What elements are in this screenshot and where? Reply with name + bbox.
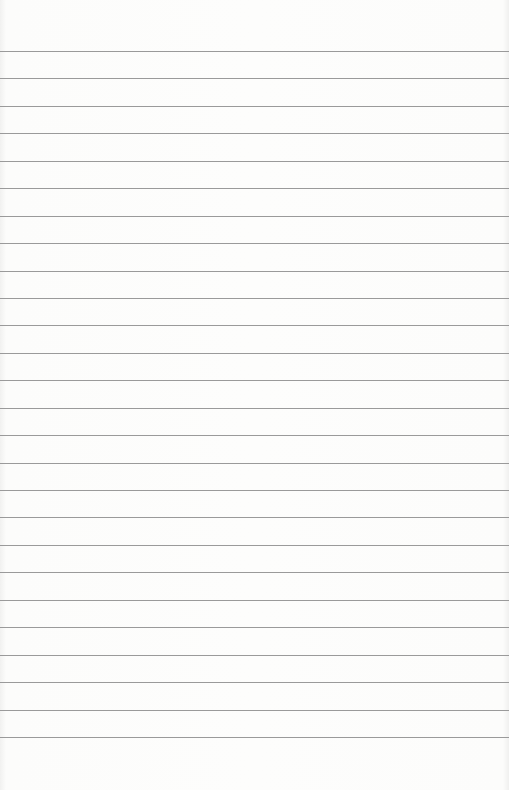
ruled-line (0, 572, 509, 573)
ruled-line (0, 737, 509, 738)
lined-paper-sheet (0, 0, 509, 790)
ruled-line (0, 627, 509, 628)
ruled-line (0, 51, 509, 52)
ruled-line (0, 655, 509, 656)
ruled-line (0, 710, 509, 711)
ruled-line (0, 106, 509, 107)
ruled-line (0, 600, 509, 601)
ruled-line (0, 78, 509, 79)
ruled-line (0, 161, 509, 162)
ruled-line (0, 133, 509, 134)
ruled-line (0, 545, 509, 546)
ruled-line (0, 188, 509, 189)
ruled-line (0, 243, 509, 244)
ruled-line (0, 271, 509, 272)
ruled-line (0, 298, 509, 299)
ruled-line (0, 325, 509, 326)
ruled-line (0, 216, 509, 217)
ruled-line (0, 353, 509, 354)
ruled-line (0, 380, 509, 381)
ruled-line (0, 682, 509, 683)
ruled-line (0, 435, 509, 436)
ruled-line (0, 463, 509, 464)
ruled-line (0, 490, 509, 491)
ruled-line (0, 408, 509, 409)
ruled-line (0, 517, 509, 518)
